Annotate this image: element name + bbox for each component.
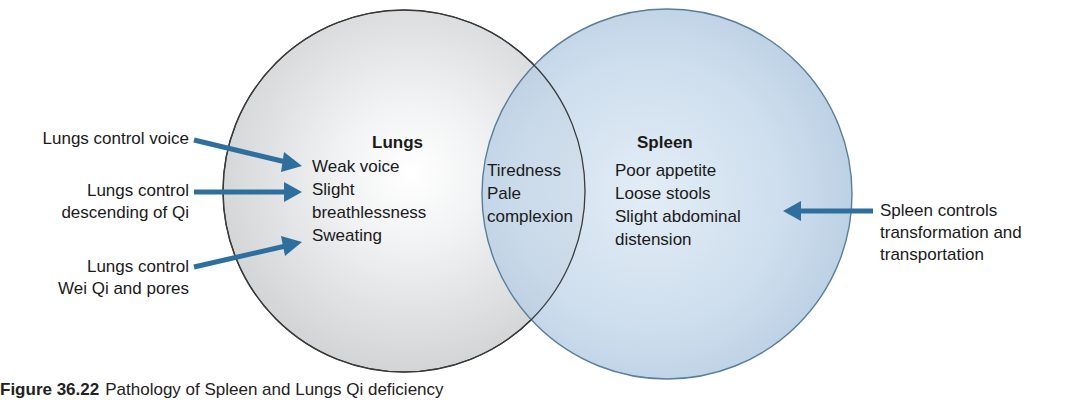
figure-number: Figure 36.22 [0, 380, 99, 399]
label-spleen-controls-transformation: Spleen controls transformation and trans… [880, 200, 1022, 266]
figure-caption-text: Pathology of Spleen and Lungs Qi deficie… [105, 380, 443, 399]
figure-caption: Figure 36.22Pathology of Spleen and Lung… [0, 380, 444, 400]
label-lungs-control-descending-qi: Lungs control descending of Qi [61, 180, 189, 224]
lungs-title: Lungs [372, 132, 423, 154]
lungs-symptoms: Weak voice Slight breathlessness Sweatin… [312, 155, 426, 247]
overlap-symptoms: Tiredness Pale complexion [487, 159, 573, 228]
spleen-title: Spleen [637, 132, 693, 154]
label-lungs-control-wei-qi: Lungs control Wei Qi and pores [58, 256, 189, 300]
spleen-symptoms: Poor appetite Loose stools Slight abdomi… [615, 159, 741, 251]
label-lungs-control-voice: Lungs control voice [43, 128, 189, 150]
